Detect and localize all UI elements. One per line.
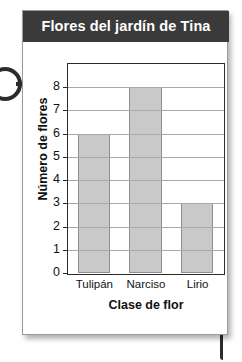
y-axis-tick <box>63 273 68 274</box>
y-axis-tick-label: 0 <box>40 265 60 279</box>
y-axis-tick-label: 1 <box>40 242 60 256</box>
plot-inner: 012345678 <box>68 64 224 274</box>
y-axis-tick-label: 7 <box>40 102 60 116</box>
y-axis-tick-label: 5 <box>40 149 60 163</box>
gridline <box>68 180 224 181</box>
x-axis-tick-label: Narciso <box>120 278 172 290</box>
gridline <box>68 227 224 228</box>
gridline <box>68 134 224 135</box>
x-axis-title: Clase de flor <box>67 298 225 312</box>
x-axis-tick-label: Lirio <box>172 278 224 290</box>
gridline <box>68 157 224 158</box>
y-axis-tick-label: 4 <box>40 172 60 186</box>
gridline <box>68 250 224 251</box>
bar-chart-figure: Número de flores 012345678 Clase de flor… <box>23 42 229 335</box>
page-title: Flores del jardín de Tina <box>23 11 229 42</box>
chart-title-bar: Flores del jardín de Tina <box>23 11 229 42</box>
gridline <box>68 203 224 204</box>
bar-lirio <box>181 203 213 273</box>
y-axis-tick-label: 2 <box>40 219 60 233</box>
y-axis-tick-label: 8 <box>40 79 60 93</box>
x-axis-tick-label: Tulipán <box>69 278 121 290</box>
gridline <box>68 110 224 111</box>
gridline <box>68 87 224 88</box>
plot-area: 012345678 <box>67 63 225 275</box>
y-axis-tick-label: 3 <box>40 195 60 209</box>
y-axis-tick-label: 6 <box>40 126 60 140</box>
chart-card: Flores del jardín de Tina Número de flor… <box>22 10 228 335</box>
